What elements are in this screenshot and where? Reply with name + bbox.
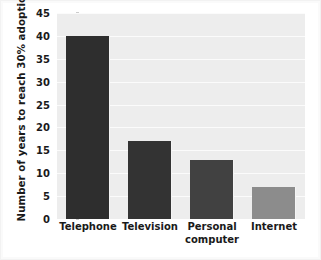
y-tick-label: 20 <box>24 122 50 133</box>
y-tick-label: 40 <box>24 30 50 41</box>
x-tick-label: Television <box>119 221 181 234</box>
y-tick-label: 5 <box>24 191 50 202</box>
x-tick-label: Telephone <box>57 221 119 234</box>
x-tick-label: Personalcomputer <box>181 221 243 246</box>
x-tick-label-line: Television <box>119 221 181 234</box>
y-tick-label: 25 <box>24 99 50 110</box>
bar <box>252 187 297 219</box>
x-tick-label-line: computer <box>181 234 243 247</box>
x-tick-label: Internet <box>243 221 305 234</box>
y-tick-label: 0 <box>24 214 50 225</box>
y-tick-label: 10 <box>24 168 50 179</box>
bar-chart-figure: Number of years to reach 30% adoption ra… <box>0 0 321 260</box>
bar <box>128 141 173 219</box>
x-tick-label-line: Telephone <box>57 221 119 234</box>
bar-series <box>57 13 305 219</box>
y-tick-label: 30 <box>24 76 50 87</box>
x-tick-label-line: Internet <box>243 221 305 234</box>
y-axis-tick-labels: 051015202530354045 <box>24 13 50 219</box>
x-axis-tick-labels: TelephoneTelevisionPersonalcomputerInter… <box>57 221 305 257</box>
x-tick-label-line: Personal <box>181 221 243 234</box>
y-tick-label: 45 <box>24 8 50 19</box>
plot-area <box>57 13 305 219</box>
y-tick-label: 35 <box>24 53 50 64</box>
bar <box>190 160 235 220</box>
y-tick-label: 15 <box>24 145 50 156</box>
bar <box>66 36 111 219</box>
